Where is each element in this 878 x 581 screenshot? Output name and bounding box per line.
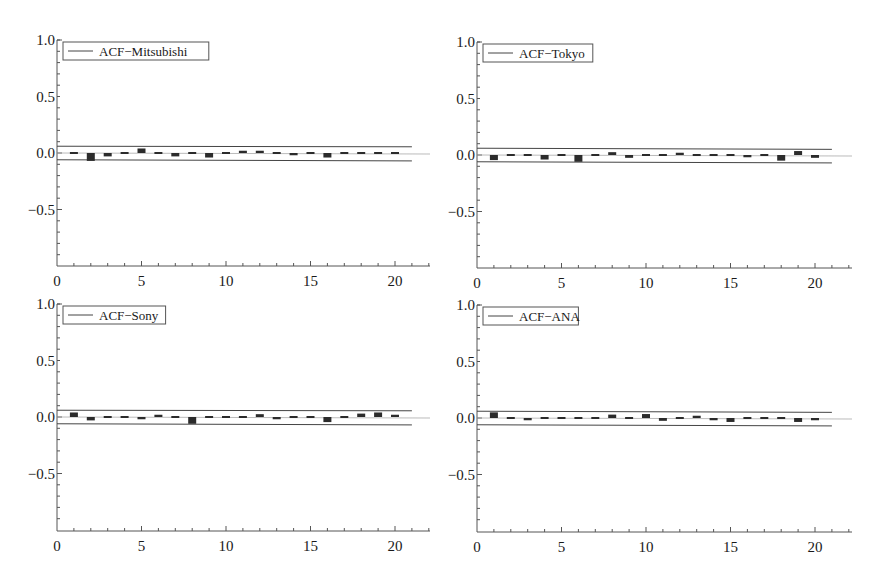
acf-bar: [727, 418, 735, 422]
acf-bar: [205, 153, 213, 158]
acf-bar: [541, 155, 549, 160]
acf-bar: [290, 153, 298, 155]
acf-bar: [104, 416, 112, 418]
acf-bar: [374, 412, 382, 417]
acf-bar: [743, 155, 751, 157]
acf-bar: [154, 415, 162, 417]
acf-bar: [273, 417, 281, 419]
acf-bar: [171, 153, 179, 156]
y-tick-label: 0.0: [36, 409, 55, 425]
acf-panel-3: 051015201.00.50.0−0.5ACF−Sony: [28, 296, 430, 554]
acf-bar: [273, 152, 281, 154]
y-tick-label: 1.0: [36, 296, 55, 312]
zero-line: [57, 153, 430, 154]
x-tick-label: 10: [219, 538, 234, 554]
acf-bar: [710, 154, 718, 156]
acf-bar: [743, 417, 751, 419]
y-tick-label: 1.0: [456, 34, 475, 50]
legend-label: ACF−Sony: [99, 308, 159, 323]
acf-bar: [87, 417, 95, 420]
acf-bar: [70, 152, 78, 154]
acf-bar: [374, 152, 382, 154]
acf-bar: [340, 416, 348, 418]
acf-bar: [811, 418, 819, 420]
x-tick-label: 0: [53, 273, 61, 289]
x-tick-label: 10: [639, 275, 654, 291]
acf-bar: [642, 154, 650, 156]
acf-bar: [290, 416, 298, 418]
x-tick-label: 0: [473, 539, 481, 555]
upper-confidence-band: [477, 411, 832, 412]
x-tick-label: 5: [138, 538, 146, 554]
legend-label: ACF−Mitsubishi: [99, 44, 188, 59]
x-tick-label: 20: [388, 273, 403, 289]
acf-bar: [70, 412, 78, 417]
acf-bar: [574, 155, 582, 162]
acf-bar: [625, 417, 633, 419]
y-tick-label: 0.0: [456, 147, 475, 163]
lower-confidence-band: [477, 425, 832, 426]
acf-bar: [171, 416, 179, 418]
acf-bar: [87, 153, 95, 161]
acf-bar: [558, 154, 566, 156]
acf-bar: [608, 152, 616, 155]
acf-bar: [591, 154, 599, 156]
y-tick-label: 1.0: [36, 32, 55, 48]
upper-confidence-band: [477, 148, 832, 149]
acf-bar: [490, 412, 498, 418]
x-tick-label: 0: [473, 275, 481, 291]
x-tick-label: 20: [388, 538, 403, 554]
x-tick-label: 15: [723, 275, 738, 291]
acf-bar: [256, 151, 264, 153]
acf-bar: [188, 417, 196, 424]
acf-bar: [256, 414, 264, 417]
acf-bar: [777, 155, 785, 161]
x-tick-label: 15: [303, 538, 318, 554]
acf-bar: [693, 154, 701, 156]
y-tick-label: 0.5: [36, 353, 55, 369]
acf-bar: [642, 414, 650, 418]
acf-bar: [239, 416, 247, 418]
acf-bar: [490, 155, 498, 160]
y-tick-label: 0.0: [36, 145, 55, 161]
acf-bar: [121, 152, 129, 154]
acf-bar: [222, 152, 230, 154]
acf-bar: [323, 417, 331, 422]
acf-bar: [693, 416, 701, 418]
acf-bar: [558, 417, 566, 419]
lower-confidence-band: [57, 160, 412, 161]
acf-bar: [541, 417, 549, 419]
lower-confidence-band: [57, 424, 412, 425]
acf-bar: [608, 415, 616, 418]
acf-bar: [794, 418, 802, 422]
acf-bar: [524, 154, 532, 156]
acf-bar: [524, 418, 532, 420]
upper-confidence-band: [57, 410, 412, 411]
x-tick-label: 5: [558, 539, 566, 555]
acf-bar: [676, 153, 684, 155]
upper-confidence-band: [57, 146, 412, 147]
x-tick-label: 5: [138, 273, 146, 289]
acf-bar: [138, 417, 146, 419]
acf-bar: [811, 155, 819, 158]
acf-bar: [121, 416, 129, 418]
acf-bar: [340, 152, 348, 154]
acf-bar: [205, 416, 213, 418]
acf-bar: [357, 414, 365, 417]
acf-bar: [222, 416, 230, 418]
acf-bar: [794, 151, 802, 155]
acf-bar: [659, 154, 667, 156]
acf-bar: [591, 417, 599, 419]
x-tick-label: 5: [558, 275, 566, 291]
y-tick-label: 0.5: [456, 91, 475, 107]
acf-bar: [574, 417, 582, 419]
x-tick-label: 20: [808, 539, 823, 555]
acf-figure: 051015201.00.50.0−0.5ACF−Mitsubishi05101…: [0, 0, 878, 581]
acf-bar: [239, 151, 247, 153]
y-tick-label: −0.5: [28, 466, 55, 482]
acf-bar: [659, 418, 667, 421]
y-tick-label: 0.0: [456, 410, 475, 426]
acf-bar: [625, 155, 633, 158]
acf-bar: [307, 152, 315, 154]
y-tick-label: −0.5: [28, 202, 55, 218]
